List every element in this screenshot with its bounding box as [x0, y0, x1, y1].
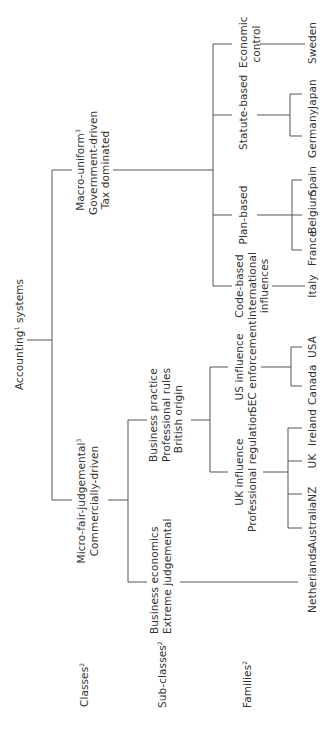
- country-sweden: Sweden: [306, 24, 319, 64]
- level-label-families: Families2: [241, 661, 254, 708]
- subclass-statute-based: Statute-based: [237, 80, 250, 150]
- subclass-business-practice: Business practice Professional rules Bri…: [147, 376, 185, 462]
- subclass-economic-control: Economic control: [237, 20, 262, 68]
- country-nz: NZ: [306, 484, 319, 504]
- country-ireland: Ireland: [306, 410, 319, 446]
- subclass-plan-based: Plan-based: [237, 185, 250, 245]
- country-italy: Italy: [306, 271, 319, 301]
- class-micro-fair-judgemental: Micro-fair-judgemental3 Commercially-dri…: [75, 436, 100, 566]
- country-canada: Canada: [306, 367, 319, 405]
- subclass-business-economics: Business economics Extreme judgemental: [148, 530, 173, 634]
- family-uk-influence: UK influence Professional regulation: [233, 412, 258, 532]
- country-spain: Spain: [306, 166, 319, 196]
- country-belgium: Belgium: [306, 194, 319, 234]
- root-label: Accounting1 systems: [13, 279, 26, 390]
- country-germany: Germany: [306, 114, 319, 158]
- class-macro-uniform: Macro-uniform3 Government-driven Tax dom…: [74, 125, 112, 215]
- level-label-classes: Classes2: [78, 663, 91, 707]
- subclass-code-based: Code-based international influences: [233, 250, 271, 322]
- level-label-subclasses: Sub-classes2: [156, 641, 169, 708]
- country-japan: Japan: [306, 78, 319, 110]
- country-netherlands: Netherlands: [306, 551, 319, 613]
- country-australia: Australia: [306, 507, 319, 549]
- family-us-influence: US influence SEC enforcement: [233, 321, 258, 413]
- country-usa: USA: [306, 333, 319, 361]
- country-france: France: [306, 232, 319, 266]
- country-uk: UK: [306, 451, 319, 471]
